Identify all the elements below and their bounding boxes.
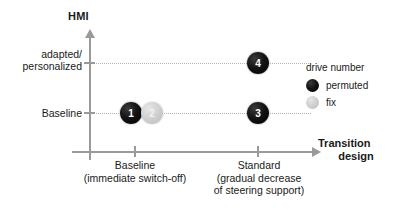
x-tick-label-standard-line3: of steering support) xyxy=(186,184,332,197)
legend-item-permuted[interactable]: permuted xyxy=(306,77,392,93)
x-tick-label-standard-line1: Standard xyxy=(186,159,332,172)
y-axis-arrow-icon xyxy=(85,29,95,38)
legend-title: drive number xyxy=(306,62,392,73)
legend-swatch-fix-icon xyxy=(306,96,319,109)
legend-label-permuted: permuted xyxy=(326,80,368,91)
x-tick-mark-baseline xyxy=(134,146,136,157)
y-axis-title: HMI xyxy=(68,10,89,22)
y-tick-label-adapted-personalized: adapted/ personalized xyxy=(10,48,82,72)
x-axis-title-line1: Transition xyxy=(318,137,394,150)
x-tick-label-standard-line2: (gradual decrease xyxy=(186,172,332,185)
legend-item-fix[interactable]: fix xyxy=(306,94,392,110)
hmi-transition-design-chart: HMI Transition design adapted/ personali… xyxy=(0,0,396,215)
y-axis-line xyxy=(89,36,91,160)
x-axis-line xyxy=(72,151,313,153)
y-tick-mark-adapted xyxy=(84,62,95,64)
data-point-drive-1[interactable]: 1 xyxy=(120,102,142,124)
y-tick-label-adapted-line1: adapted/ xyxy=(41,48,82,60)
data-point-drive-3[interactable]: 3 xyxy=(247,102,269,124)
y-tick-label-baseline: Baseline xyxy=(10,107,82,119)
data-point-drive-2[interactable]: 2 xyxy=(141,102,163,124)
x-tick-label-standard: Standard (gradual decrease of steering s… xyxy=(186,159,332,197)
legend: drive number permuted fix xyxy=(306,62,392,110)
legend-swatch-permuted-icon xyxy=(306,79,319,92)
x-tick-mark-standard xyxy=(257,146,259,157)
y-tick-mark-baseline xyxy=(84,112,95,114)
legend-label-fix: fix xyxy=(326,97,336,108)
y-tick-label-baseline-line1: Baseline xyxy=(42,107,82,119)
gridline-adapted-personalized xyxy=(89,63,311,64)
data-point-drive-4[interactable]: 4 xyxy=(247,52,269,74)
y-tick-label-adapted-line2: personalized xyxy=(22,60,82,72)
